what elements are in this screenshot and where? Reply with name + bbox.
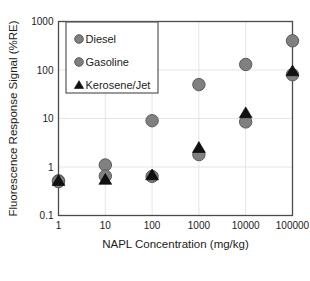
y-tick-label: 1 [48, 162, 54, 173]
x-tick-label: 10 [100, 220, 112, 231]
y-tick-label: 100 [37, 65, 54, 76]
y-tick-label: 1000 [31, 16, 54, 27]
x-tick-label: 1000 [188, 220, 211, 231]
data-point [286, 35, 298, 47]
legend-label: Diesel [86, 33, 117, 45]
x-tick-label: 1 [56, 220, 62, 231]
x-axis-tick-labels: 110100100010000100000 [56, 220, 310, 231]
legend-item-kerosene-jet[interactable]: Kerosene/Jet [74, 79, 150, 91]
data-point [193, 78, 205, 90]
legend-marker-circle [75, 58, 84, 67]
data-point [193, 142, 206, 153]
data-point [240, 58, 252, 70]
legend-marker-circle [75, 35, 84, 44]
figure-container: 110100100010000100000 10001001010.1 NAPL… [0, 0, 310, 281]
x-tick-label: 10000 [232, 220, 260, 231]
y-axis-tick-labels: 10001001010.1 [31, 16, 54, 221]
y-tick-label: 10 [42, 113, 54, 124]
legend-item-diesel[interactable]: Diesel [75, 33, 116, 45]
data-point [146, 115, 158, 127]
y-axis-title: Fluorescence Response Signal (%RE) [7, 20, 19, 216]
legend-label: Gasoline [86, 56, 129, 68]
y-tick-label: 0.1 [40, 210, 54, 221]
legend-label: Kerosene/Jet [86, 79, 151, 91]
scatter-plot: 110100100010000100000 10001001010.1 NAPL… [0, 0, 310, 281]
data-point [99, 159, 111, 171]
data-point [239, 107, 252, 118]
x-axis-title: NAPL Concentration (mg/kg) [102, 238, 249, 250]
x-tick-label: 100 [144, 220, 161, 231]
x-tick-label: 100000 [276, 220, 310, 231]
legend: DieselGasolineKerosene/Jet [66, 22, 158, 93]
